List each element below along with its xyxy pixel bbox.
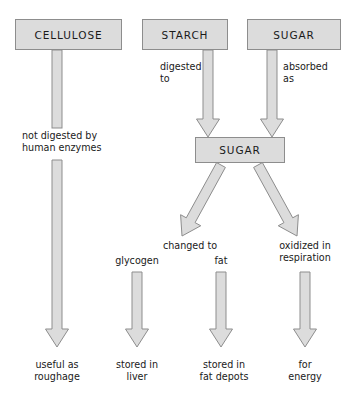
sugar-top-to-sugar <box>261 50 284 137</box>
node-sugar-top[interactable]: SUGAR <box>247 19 341 50</box>
fat-arrow <box>210 272 233 347</box>
terminal-label-for-energy: for energy <box>288 359 321 382</box>
edge-label-fat: fat <box>214 255 227 267</box>
node-sugar-middle[interactable]: SUGAR <box>195 137 285 163</box>
edge-label-changed-to: changed to <box>163 240 217 252</box>
sugar-to-oxidized <box>254 163 299 236</box>
cellulose-upper-shaft <box>52 50 62 128</box>
edge-label-not-digested-by-human-enzymes: not digested by human enzymes <box>22 130 101 153</box>
node-starch[interactable]: STARCH <box>142 19 228 50</box>
sugar-to-changed-to <box>181 163 226 236</box>
edge-label-glycogen: glycogen <box>115 255 159 267</box>
cellulose-lower-arrow <box>46 160 69 347</box>
edge-label-oxidized-in-respiration: oxidized in respiration <box>279 240 331 263</box>
node-cellulose[interactable]: CELLULOSE <box>15 19 122 50</box>
terminal-label-stored-in-fat-depots: stored in fat depots <box>200 359 249 382</box>
terminal-label-useful-as-roughage: useful as roughage <box>34 359 80 382</box>
edge-label-digested-to: digested to <box>160 61 202 84</box>
node-sugar-top-label: SUGAR <box>273 29 314 41</box>
node-sugar-middle-label: SUGAR <box>219 144 260 156</box>
node-starch-label: STARCH <box>162 29 209 41</box>
carbohydrate-digestion-diagram: CELLULOSE STARCH SUGAR SUGAR digested to… <box>0 0 347 399</box>
energy-arrow <box>294 272 317 347</box>
terminal-label-stored-in-liver: stored in liver <box>116 359 158 382</box>
flow-arrows-layer <box>0 0 347 399</box>
edge-label-absorbed-as: absorbed as <box>283 61 328 84</box>
node-cellulose-label: CELLULOSE <box>35 29 103 41</box>
glycogen-arrow <box>126 272 149 347</box>
